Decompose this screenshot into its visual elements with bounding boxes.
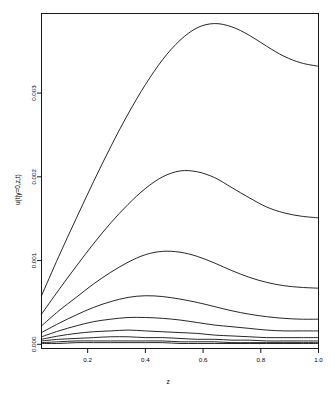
- y-tick-label: 0.002: [30, 169, 37, 185]
- x-tick-label: 0.4: [141, 356, 150, 363]
- y-tick-label: 0.001: [30, 252, 37, 268]
- plot-root: 0.20.40.60.81.00.0000.0010.0020.003 u(t|…: [0, 0, 336, 394]
- x-tick-label: 0.8: [256, 356, 265, 363]
- chart-canvas: 0.20.40.60.81.00.0000.0010.0020.003: [0, 0, 336, 394]
- chart-background: [0, 0, 336, 394]
- y-axis-title: u(t|y=0,z,t): [14, 174, 21, 205]
- x-tick-label: 0.6: [199, 356, 208, 363]
- x-tick-label: 1.0: [314, 356, 323, 363]
- x-tick-label: 0.2: [83, 356, 92, 363]
- x-axis-title: z: [0, 378, 336, 385]
- y-tick-label: 0.003: [30, 85, 37, 101]
- y-tick-label: 0.000: [30, 336, 37, 352]
